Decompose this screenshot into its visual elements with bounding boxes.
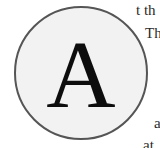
body-text-line: t th [136, 3, 156, 18]
drop-cap-letter: A [46, 27, 115, 123]
body-text-line: Th [145, 26, 160, 41]
drop-cap-circle: A [14, 6, 148, 140]
body-text-line: a [154, 116, 160, 131]
body-text-line: at [143, 138, 154, 148]
page-excerpt: A t th Th a at [0, 0, 160, 148]
